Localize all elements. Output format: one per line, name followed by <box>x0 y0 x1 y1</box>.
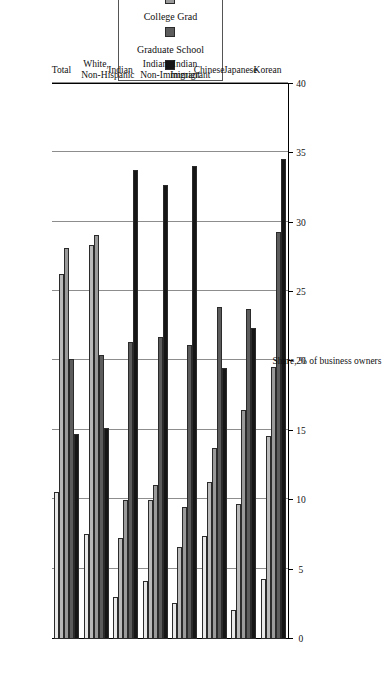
category-axis-line <box>52 83 288 84</box>
legend-label: College Grad <box>143 11 197 22</box>
category-label-line: Indian <box>141 59 171 70</box>
bar <box>163 185 168 639</box>
gridline <box>52 290 288 291</box>
legend-item: College Grad <box>124 7 216 40</box>
category-label-line: Korean <box>253 65 283 76</box>
category-label: Korean <box>253 65 283 76</box>
axis-tick-label: 5 <box>291 565 311 575</box>
axis-tick-label: 25 <box>291 287 311 297</box>
axis-tick-label: 10 <box>291 495 311 505</box>
legend-label: Graduate School <box>137 44 204 55</box>
bar <box>251 328 256 639</box>
chart-canvas: HS DropoutHS GraduateSome CollegeCollege… <box>0 0 382 679</box>
category-label-line: Non-Immigrant <box>141 70 171 81</box>
axis-tick-label: 40 <box>291 79 311 89</box>
gridline <box>52 221 288 222</box>
category-label: Total <box>47 65 77 76</box>
axis-tick-label: 15 <box>291 426 311 436</box>
bar <box>74 434 79 639</box>
bar <box>133 170 138 639</box>
bar <box>192 166 197 639</box>
axis-tick-label: 30 <box>291 218 311 228</box>
category-label: Indian <box>106 65 136 76</box>
category-label: Japanese <box>224 65 254 76</box>
axis-tick-label: 35 <box>291 148 311 158</box>
category-label-line: Total <box>47 65 77 76</box>
bar <box>281 159 286 639</box>
value-axis-title: Share, % of business owners <box>257 357 382 367</box>
gridline <box>52 151 288 152</box>
legend-swatch <box>165 0 175 4</box>
category-label-line: Chinese <box>194 65 224 76</box>
bar <box>222 368 227 639</box>
category-label-line: Indian <box>106 65 136 76</box>
bar <box>104 428 109 639</box>
axis-tick-label: 0 <box>291 634 311 644</box>
legend-swatch <box>165 27 175 37</box>
legend-item: Some College <box>124 0 216 7</box>
category-label: IndianNon-Immigrant <box>141 59 171 81</box>
category-label-line: Japanese <box>224 65 254 76</box>
category-label: Chinese <box>194 65 224 76</box>
